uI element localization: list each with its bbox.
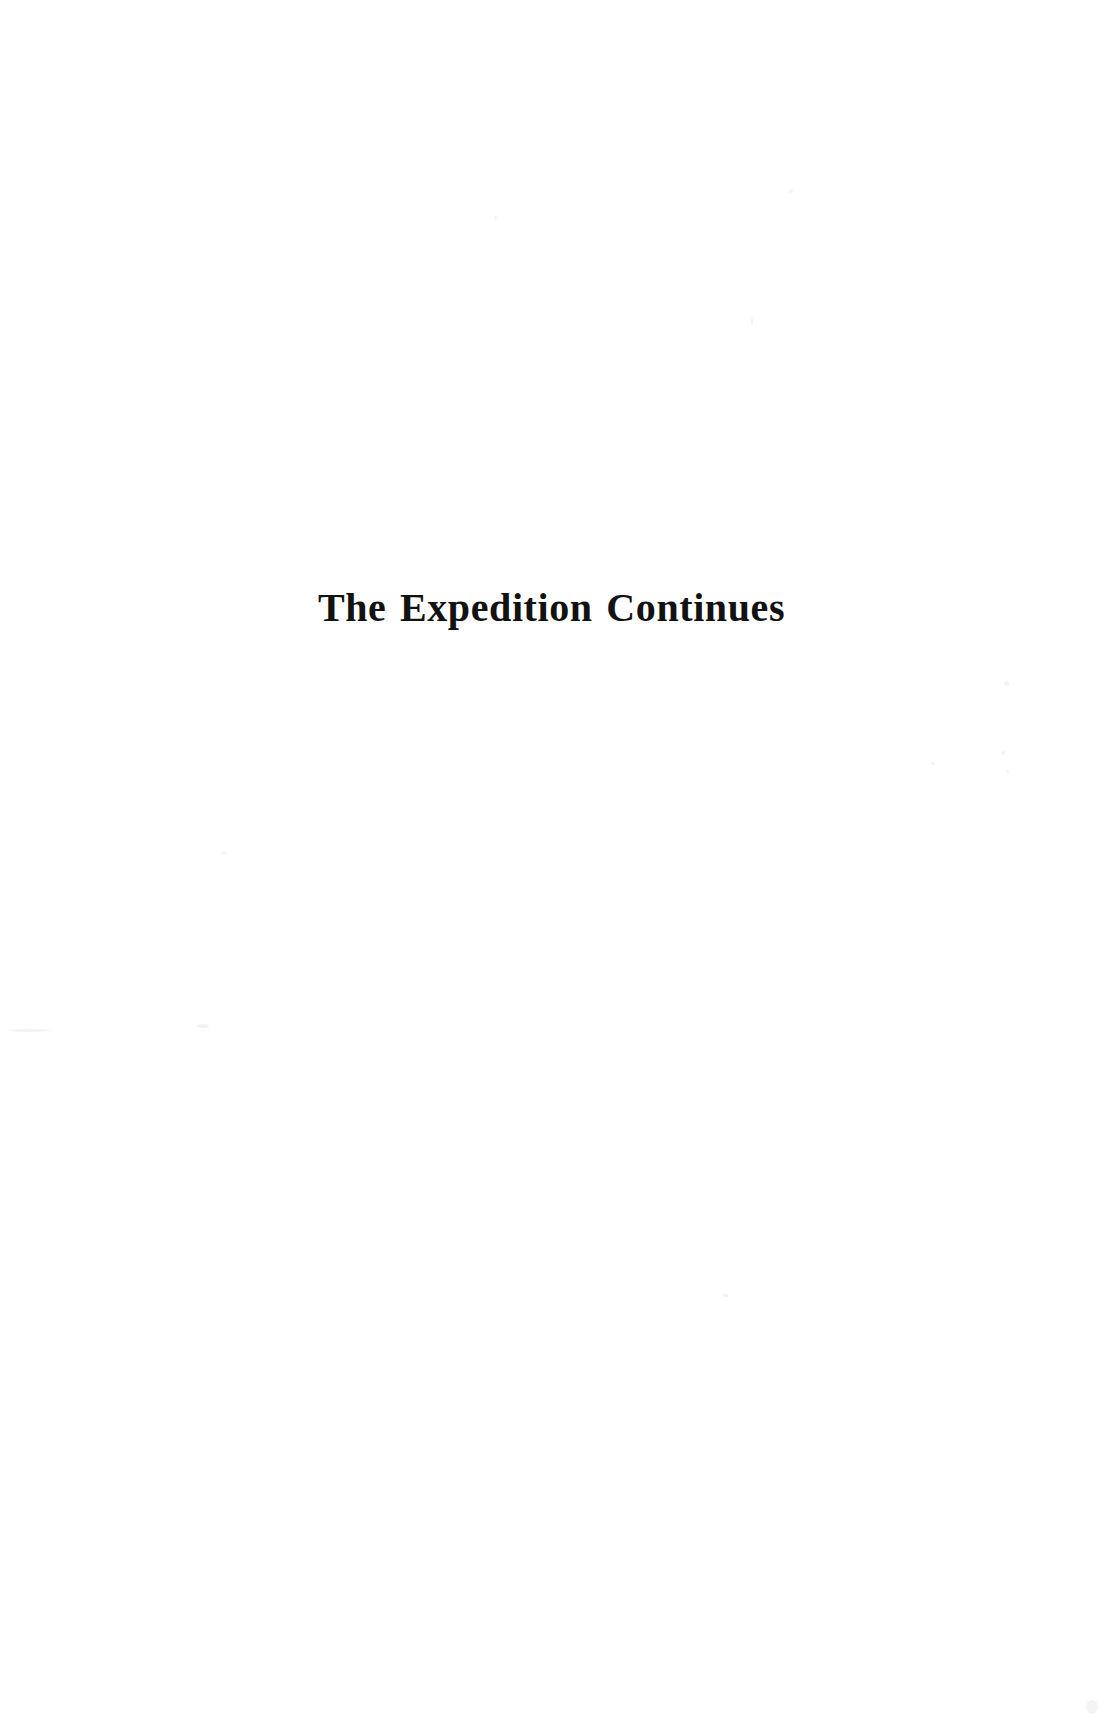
- page-title: The Expedition Continues: [318, 588, 785, 628]
- document-page: The Expedition Continues: [0, 0, 1115, 1728]
- title-block: The Expedition Continues: [0, 0, 1115, 1728]
